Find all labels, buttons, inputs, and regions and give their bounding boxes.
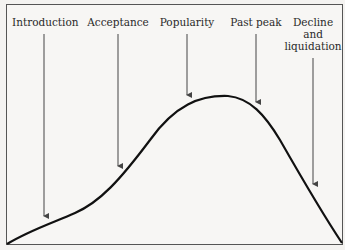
stage-label-decline: Decline and liquidation (283, 16, 343, 52)
stage-label-introduction: Introduction (12, 16, 76, 28)
stage-label-popularity: Popularity (157, 16, 217, 28)
curve-line (7, 96, 342, 244)
stage-label-acceptance: Acceptance (86, 16, 150, 28)
stage-label-past-peak: Past peak (226, 16, 286, 28)
